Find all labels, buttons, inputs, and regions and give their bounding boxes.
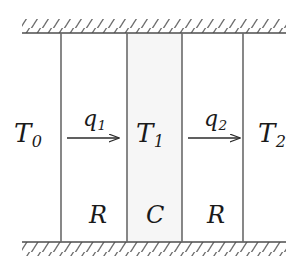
label-T1-subscript: 1 (154, 132, 164, 151)
label-q2-subscript: 2 (219, 117, 228, 133)
label-q1-base: q (83, 106, 97, 131)
label-q2: q2 (204, 108, 227, 132)
label-capacitance: C (146, 203, 164, 227)
thermal-rc-diagram: T0 T1 T2 q1 q2 R C R (0, 0, 298, 271)
label-T1: T1 (136, 120, 164, 150)
label-q1: q1 (83, 108, 106, 132)
top-boundary-hatching (22, 19, 286, 33)
label-q2-base: q (204, 106, 218, 131)
label-q1-subscript: 1 (98, 117, 107, 133)
label-resistance-right: R (207, 203, 225, 227)
label-T0: T0 (14, 120, 42, 150)
bottom-boundary-hatching (22, 242, 286, 256)
label-T1-base: T (136, 118, 153, 148)
label-T0-subscript: 0 (32, 132, 42, 151)
label-T2: T2 (258, 120, 286, 150)
label-T0-base: T (14, 118, 31, 148)
label-T2-subscript: 2 (276, 132, 286, 151)
label-T2-base: T (258, 118, 275, 148)
label-resistance-left: R (89, 203, 107, 227)
